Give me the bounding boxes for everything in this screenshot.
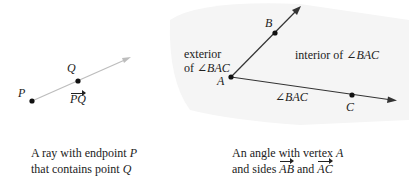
label-angle-bac: ∠BAC (275, 91, 308, 104)
label-exterior: exterior of ∠BAC (184, 47, 230, 75)
caption-angle: An angle with vertex A and sides AB and … (232, 145, 343, 177)
vertex-a (228, 74, 233, 79)
point-b (272, 30, 277, 35)
point-q (75, 78, 80, 83)
point-p (29, 98, 34, 103)
arrowhead-icon (122, 57, 131, 63)
label-p: P (18, 87, 25, 100)
label-interior: interior of ∠BAC (295, 49, 379, 62)
label-a: A (217, 75, 224, 88)
caption-angle-line1: An angle with vertex A (232, 145, 343, 161)
geometry-figure: P Q PQ A ray with endpoint P that contai… (0, 0, 409, 181)
label-b: B (265, 17, 272, 30)
point-c (349, 92, 354, 97)
label-ray-pq: PQ (70, 93, 86, 106)
label-q: Q (67, 62, 76, 75)
caption-angle-line2: and sides AB and AC (232, 161, 343, 177)
caption-ray-line2: that contains point Q (31, 161, 137, 177)
caption-ray-line1: A ray with endpoint P (31, 145, 137, 161)
caption-ray: A ray with endpoint P that contains poin… (31, 145, 137, 177)
label-c: C (346, 101, 354, 114)
